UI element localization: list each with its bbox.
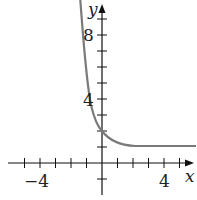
y-axis-arrow-icon [99,4,106,13]
function-curve [80,0,196,146]
y-tick-label-4: 4 [83,90,94,110]
x-tick-label-4: 4 [159,171,170,191]
chart-canvas: y x 8 4 −4 4 [0,0,197,200]
x-axis-label: x [185,166,195,186]
y-tick-label-8: 8 [83,25,94,45]
y-axis-label: y [87,0,98,19]
x-tick-label-neg4: −4 [24,171,49,191]
